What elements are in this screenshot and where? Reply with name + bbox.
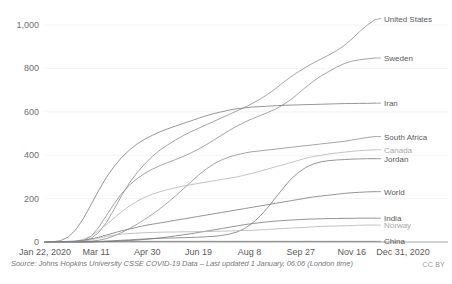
y-tick-label: 0: [34, 237, 39, 247]
y-tick-label: 1,000: [16, 20, 39, 30]
gridlines-group: [45, 25, 448, 199]
x-tick-label: Jan 22, 2020: [19, 247, 71, 257]
series-label-world[interactable]: World: [384, 188, 405, 197]
series-label-norway[interactable]: Norway: [384, 221, 411, 230]
license-note: CC BY: [423, 261, 445, 268]
y-tick-label: 600: [24, 107, 39, 117]
series-label-china[interactable]: China: [384, 237, 405, 246]
series-label-united-states[interactable]: United States: [384, 15, 432, 24]
x-tick-label: Nov 16: [338, 247, 367, 257]
x-tick-label: Sep 27: [286, 247, 315, 257]
x-axis-tick-labels: Jan 22, 2020Mar 11Apr 30Jun 19Aug 8Sep 2…: [19, 247, 430, 257]
x-tick-label: Apr 30: [134, 247, 161, 257]
x-tick-label: Jun 19: [185, 247, 212, 257]
series-line-world: [45, 192, 375, 242]
y-tick-label: 200: [24, 194, 39, 204]
leader-line-united-states: [375, 19, 381, 20]
chart-canvas: 02004006008001,000 Jan 22, 2020Mar 11Apr…: [0, 0, 452, 284]
series-line-united-states: [45, 20, 375, 242]
x-tick-label: Mar 11: [82, 247, 109, 257]
series-label-iran[interactable]: Iran: [384, 99, 398, 108]
series-line-jordan: [45, 159, 375, 242]
series-lines-group: [45, 20, 375, 242]
y-tick-label: 400: [24, 150, 39, 160]
series-label-sweden[interactable]: Sweden: [384, 54, 413, 63]
x-tick-label: Aug 8: [238, 247, 262, 257]
y-tick-label: 800: [24, 63, 39, 73]
series-line-iran: [45, 103, 375, 242]
series-label-canada[interactable]: Canada: [384, 146, 413, 155]
covid-line-chart: 02004006008001,000 Jan 22, 2020Mar 11Apr…: [0, 0, 452, 284]
series-labels-group: United StatesSwedenIranSouth AfricaCanad…: [384, 15, 432, 247]
series-label-leaders: [375, 19, 381, 242]
x-tick-label: Dec 31, 2020: [376, 247, 430, 257]
series-label-south-africa[interactable]: South Africa: [384, 133, 428, 142]
y-axis-tick-labels: 02004006008001,000: [16, 20, 39, 247]
series-label-jordan[interactable]: Jordan: [384, 155, 408, 164]
source-note: Source: Johns Hopkins University CSSE CO…: [11, 259, 353, 268]
